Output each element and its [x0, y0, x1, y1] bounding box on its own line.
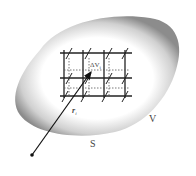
volume-label: V: [149, 113, 157, 124]
origin-point: [30, 153, 34, 157]
surface-label: S: [90, 138, 96, 149]
volume-diagram: ΔVi ri S V: [0, 0, 196, 176]
diagram-canvas: ΔVi ri S V: [0, 0, 196, 176]
